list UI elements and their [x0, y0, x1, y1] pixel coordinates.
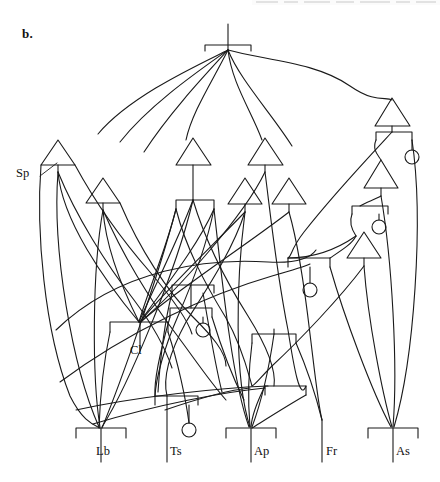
node-bracket-right-circle — [288, 258, 330, 297]
node-triangle-left-lower — [86, 178, 120, 210]
terminal-label-as: As — [396, 444, 410, 459]
node-triangle-mid-lower-left — [228, 178, 262, 212]
annotation-label-cl: Cl — [130, 343, 142, 358]
node-bracket-right-top — [375, 132, 419, 164]
root-descendant-curves — [98, 50, 392, 152]
terminal-label-ts: Ts — [170, 444, 182, 459]
long-sweeping-arcs — [56, 250, 316, 424]
node-triangle-mid-left — [176, 138, 211, 200]
reticulation-curves — [40, 132, 392, 428]
node-triangle-right-top — [375, 98, 410, 132]
node-triangle-mid-right — [248, 138, 283, 172]
annotation-label-sp: Sp — [16, 166, 29, 181]
panel-label-b: b. — [22, 26, 33, 42]
terminal-node-as — [368, 428, 418, 462]
node-triangle-sp — [41, 140, 75, 172]
node-triangle-right-mid — [364, 160, 398, 196]
terminal-label-fr: Fr — [326, 444, 337, 459]
figure-panel-b: b. Sp Cl Lb Ts Ap Fr As — [0, 0, 440, 482]
ap-convergence-curves — [214, 209, 306, 428]
terminal-label-ap: Ap — [254, 444, 269, 459]
as-convergence-curves — [330, 140, 417, 427]
terminal-label-lb: Lb — [96, 444, 110, 459]
node-triangle-right-lower — [347, 232, 381, 266]
root-node — [205, 24, 251, 51]
node-triangle-mid-lower-right — [272, 178, 306, 212]
network-diagram-canvas — [0, 0, 440, 482]
